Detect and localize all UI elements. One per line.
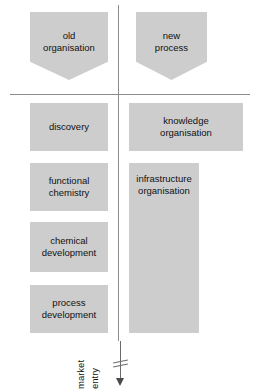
banner-old-organisation[interactable]: old organisation <box>30 12 108 80</box>
node-discovery-label: discovery <box>46 121 92 133</box>
node-infrastructure-organisation-label: infrastructure organisation <box>133 163 194 197</box>
node-discovery[interactable]: discovery <box>30 103 108 151</box>
node-process-development-label: process development <box>39 297 99 321</box>
node-infrastructure-organisation[interactable]: infrastructure organisation <box>129 163 199 333</box>
banner-old-organisation-label: old organisation <box>30 12 108 54</box>
market-entry-word-entry: entry <box>90 368 100 389</box>
node-functional-chemistry[interactable]: functional chemistry <box>30 163 108 211</box>
node-chemical-development-label: chemical development <box>39 235 99 259</box>
column-divider <box>118 5 119 341</box>
banner-new-process[interactable]: new process <box>136 12 207 80</box>
process-comparison-diagram: old organisation new process discovery f… <box>0 0 258 392</box>
node-process-development[interactable]: process development <box>30 285 108 333</box>
market-entry-caption: market entry <box>74 341 118 389</box>
node-knowledge-organisation[interactable]: knowledge organisation <box>129 103 243 151</box>
market-entry-word-market: market <box>76 360 86 389</box>
node-functional-chemistry-label: functional chemistry <box>46 175 93 199</box>
header-divider <box>10 94 250 95</box>
node-chemical-development[interactable]: chemical development <box>30 222 108 272</box>
node-knowledge-organisation-label: knowledge organisation <box>157 115 215 139</box>
banner-new-process-label: new process <box>136 12 207 54</box>
